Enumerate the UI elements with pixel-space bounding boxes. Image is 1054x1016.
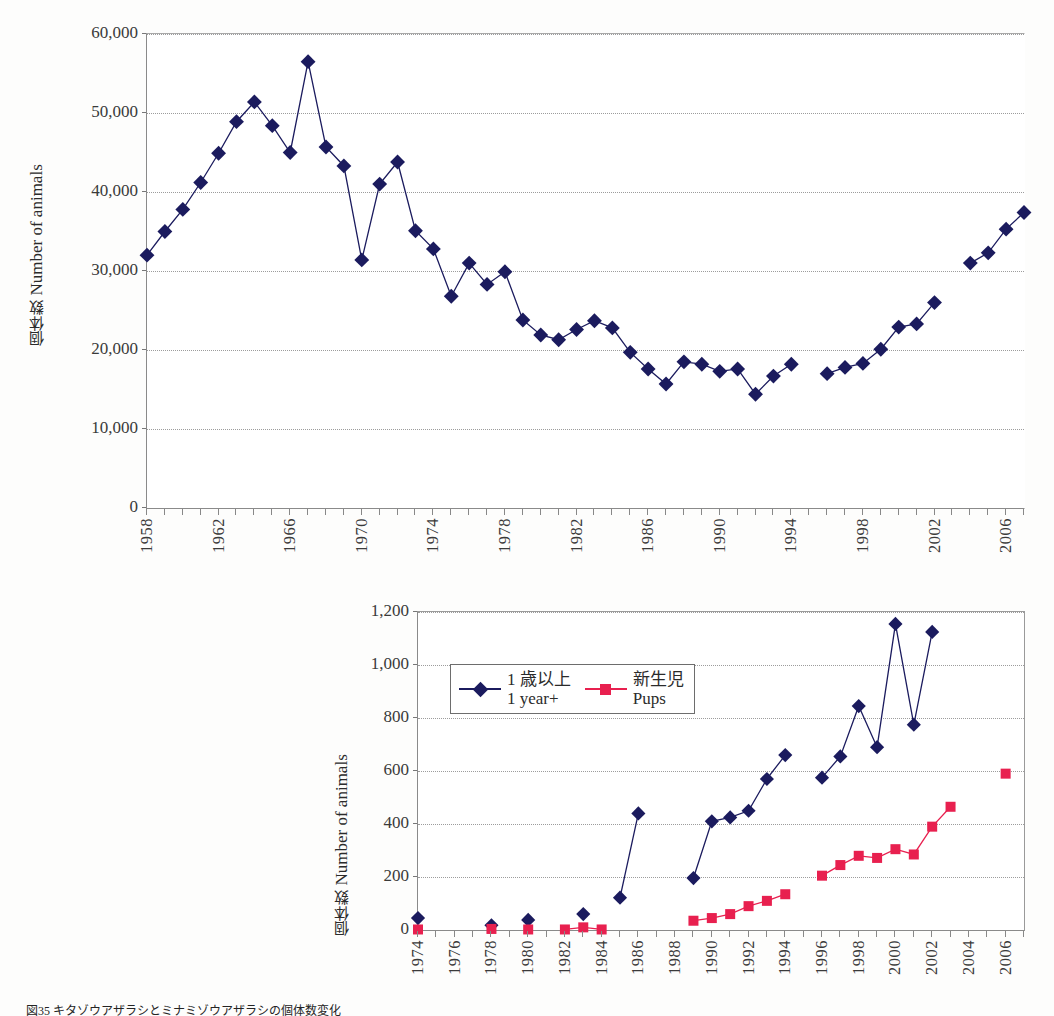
x-tick-mark bbox=[146, 509, 147, 515]
x-tick-mark bbox=[858, 931, 859, 937]
x-tick-mark bbox=[361, 509, 362, 515]
x-tick-mark bbox=[737, 509, 738, 515]
data-point-marker bbox=[613, 891, 627, 905]
x-tick-mark bbox=[839, 931, 840, 937]
x-tick-mark bbox=[1005, 931, 1006, 937]
data-point-marker bbox=[372, 177, 387, 192]
x-tick-mark bbox=[701, 509, 702, 515]
x-tick-mark bbox=[486, 509, 487, 515]
data-point-marker bbox=[140, 248, 155, 263]
x-tick-mark bbox=[766, 931, 767, 937]
x-tick-mark bbox=[619, 931, 620, 937]
chart-bottom-figure: 個体数 Number of animals 02004006008001,000… bbox=[0, 595, 1054, 1016]
x-tick-mark bbox=[755, 509, 756, 515]
legend-label-pups-jp: 新生児 bbox=[633, 670, 684, 689]
data-point-marker bbox=[723, 810, 737, 824]
data-point-marker bbox=[411, 911, 425, 925]
x-tick-mark bbox=[164, 509, 165, 515]
x-tick-mark bbox=[969, 509, 970, 515]
x-tick-mark bbox=[472, 931, 473, 937]
data-point-marker bbox=[820, 366, 835, 381]
x-tick-mark bbox=[748, 931, 749, 937]
data-point-marker bbox=[444, 289, 459, 304]
x-tick-label: 1986 bbox=[628, 940, 648, 975]
data-point-marker bbox=[946, 802, 956, 812]
data-point-marker bbox=[870, 740, 884, 754]
data-point-marker bbox=[741, 804, 755, 818]
chart-top-series-layer bbox=[147, 34, 1026, 510]
legend-entry-adults: 1 歳以上 1 year+ bbox=[459, 670, 571, 708]
x-tick-mark bbox=[582, 931, 583, 937]
chart-top-y-axis-title-jp: 個体数 bbox=[29, 299, 45, 346]
x-tick-mark bbox=[772, 509, 773, 515]
x-tick-mark bbox=[527, 931, 528, 937]
x-tick-label: 1992 bbox=[739, 940, 759, 975]
x-tick-mark bbox=[450, 509, 451, 515]
x-tick-mark bbox=[913, 931, 914, 937]
y-tick-label: 800 bbox=[343, 707, 409, 727]
x-tick-mark bbox=[593, 509, 594, 515]
data-point-marker bbox=[778, 748, 792, 762]
x-tick-label: 1994 bbox=[775, 940, 795, 975]
y-tick-label: 50,000 bbox=[72, 102, 138, 122]
series-line bbox=[620, 813, 638, 897]
chart-bottom-x-axis: 1974197619781980198219841986198819901992… bbox=[417, 931, 1025, 1016]
x-tick-mark bbox=[629, 509, 630, 515]
x-tick-mark bbox=[656, 931, 657, 937]
x-tick-label: 1962 bbox=[209, 518, 229, 553]
x-tick-mark bbox=[432, 509, 433, 515]
x-tick-mark bbox=[218, 509, 219, 515]
series-line bbox=[970, 213, 1024, 264]
data-point-marker bbox=[927, 822, 937, 832]
data-point-marker bbox=[707, 913, 717, 923]
x-tick-mark bbox=[546, 931, 547, 937]
series-line bbox=[693, 755, 785, 878]
x-tick-label: 1958 bbox=[137, 518, 157, 553]
x-tick-label: 1970 bbox=[352, 518, 372, 553]
x-tick-label: 2002 bbox=[922, 940, 942, 975]
y-tick-label: 40,000 bbox=[72, 181, 138, 201]
data-point-marker bbox=[907, 718, 921, 732]
x-tick-mark bbox=[821, 931, 822, 937]
x-tick-label: 2006 bbox=[996, 518, 1016, 553]
x-tick-label: 1976 bbox=[445, 940, 465, 975]
x-tick-mark bbox=[540, 509, 541, 515]
y-tick-label: 400 bbox=[343, 813, 409, 833]
x-tick-mark bbox=[784, 931, 785, 937]
x-tick-label: 1986 bbox=[638, 518, 658, 553]
data-point-marker bbox=[605, 320, 620, 335]
x-tick-mark bbox=[803, 931, 804, 937]
data-point-marker bbox=[688, 916, 698, 926]
x-tick-mark bbox=[931, 931, 932, 937]
x-tick-label: 1978 bbox=[481, 940, 501, 975]
data-point-marker bbox=[909, 849, 919, 859]
x-tick-mark bbox=[844, 509, 845, 515]
x-tick-label: 1974 bbox=[423, 518, 443, 553]
data-point-marker bbox=[888, 617, 902, 631]
data-point-marker bbox=[872, 853, 882, 863]
data-point-marker bbox=[762, 896, 772, 906]
data-point-marker bbox=[712, 364, 727, 379]
data-point-marker bbox=[551, 332, 566, 347]
data-point-marker bbox=[835, 860, 845, 870]
data-point-marker bbox=[354, 253, 369, 268]
y-tick-label: 600 bbox=[343, 760, 409, 780]
x-tick-mark bbox=[235, 509, 236, 515]
x-tick-mark bbox=[719, 509, 720, 515]
y-tick-label: 0 bbox=[343, 919, 409, 939]
legend-entry-pups: 新生児 Pups bbox=[585, 670, 684, 708]
x-tick-mark bbox=[950, 931, 951, 937]
data-point-marker bbox=[725, 909, 735, 919]
x-tick-mark bbox=[808, 509, 809, 515]
x-tick-label: 1990 bbox=[702, 940, 722, 975]
x-tick-label: 1988 bbox=[665, 940, 685, 975]
data-point-marker bbox=[890, 844, 900, 854]
data-point-marker bbox=[498, 264, 513, 279]
legend-key-square-icon bbox=[585, 680, 627, 698]
y-tick-label: 20,000 bbox=[72, 339, 138, 359]
data-point-marker bbox=[390, 155, 405, 170]
data-point-marker bbox=[981, 245, 996, 260]
data-point-marker bbox=[301, 54, 316, 69]
legend-label-adults-en: 1 year+ bbox=[507, 689, 559, 708]
x-tick-label: 1990 bbox=[710, 518, 730, 553]
